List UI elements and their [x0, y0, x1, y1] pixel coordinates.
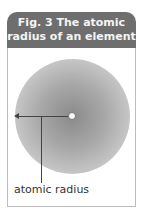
label-leader-line: [41, 116, 42, 183]
figure-title-line1: Fig. 3 The atomic: [7, 16, 136, 30]
nucleus: [68, 112, 76, 120]
figure-title-line2: radius of an element: [7, 30, 136, 44]
figure-header: Fig. 3 The atomic radius of an element: [7, 12, 136, 48]
atomic-radius-label: atomic radius: [14, 183, 89, 196]
radius-arrow-line: [17, 116, 69, 117]
arrow-head-icon: [14, 113, 19, 119]
